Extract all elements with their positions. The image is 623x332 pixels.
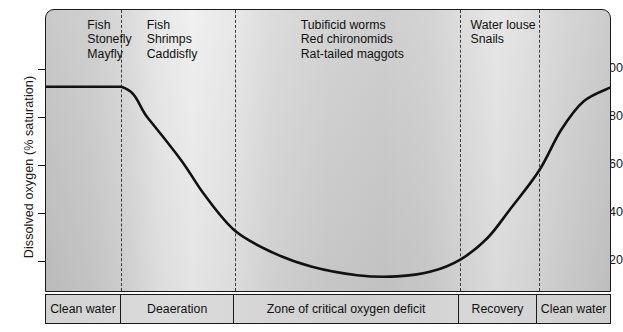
y-tick-mark: [38, 261, 45, 262]
zone-label-bar: Clean waterDeaerationZone of critical ox…: [45, 294, 611, 324]
plot-area: FishStoneflyMayflyFishShrimpsCaddisflyTu…: [45, 9, 611, 292]
zone-cell: Zone of critical oxygen deficit: [234, 295, 458, 323]
zone-label: Deaeration: [147, 302, 207, 316]
y-tick-mark: [38, 213, 45, 214]
y-tick-mark: [38, 165, 45, 166]
y-axis-title: Dissolved oxygen (% saturation): [22, 52, 36, 282]
zone-cell: Deaeration: [121, 295, 234, 323]
oxygen-sag-curve: [46, 10, 611, 292]
zone-cell: Clean water: [537, 295, 610, 323]
zone-label: Clean water: [541, 302, 607, 316]
y-tick-mark: [38, 117, 45, 118]
dissolved-oxygen-chart: Dissolved oxygen (% saturation) 10080604…: [0, 0, 623, 332]
zone-label: Recovery: [472, 302, 524, 316]
zone-cell: Recovery: [459, 295, 537, 323]
zone-label: Clean water: [50, 302, 116, 316]
y-tick-mark: [38, 69, 45, 70]
zone-cell: Clean water: [46, 295, 121, 323]
zone-label: Zone of critical oxygen deficit: [267, 302, 426, 316]
